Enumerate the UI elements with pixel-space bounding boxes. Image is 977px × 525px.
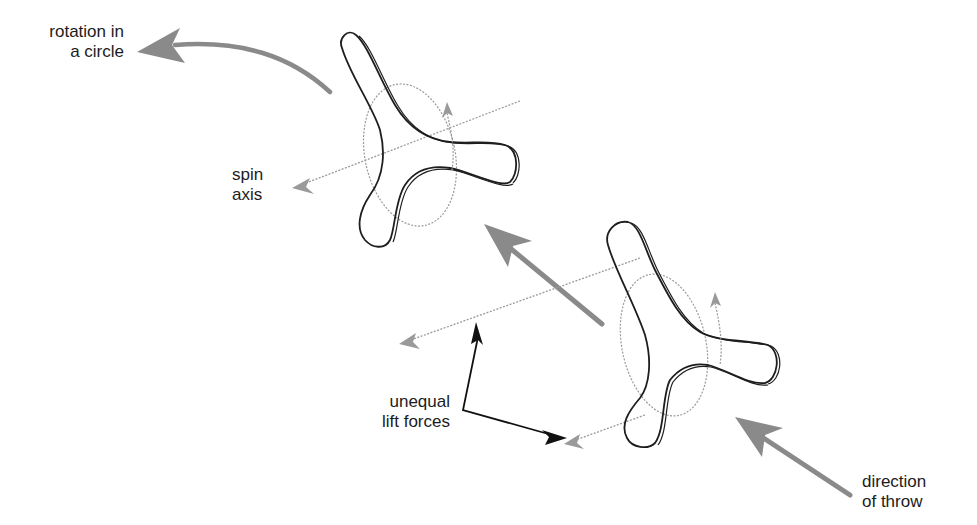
throw-direction-label: direction of throw [862, 472, 926, 512]
throw-arrow [735, 417, 850, 495]
travel-arrow-middle [484, 224, 602, 324]
spin-axis-lower-bottom [570, 415, 645, 442]
boomerang-lower [399, 222, 780, 449]
rotation-arrow [137, 28, 330, 92]
spin-axis-label: spin axis [232, 165, 263, 205]
spin-axis-lower-top [405, 258, 640, 342]
lift-forces-label: unequal lift forces [350, 392, 450, 432]
boomerang-upper [292, 33, 520, 247]
lift-pointer-arrows [463, 322, 567, 445]
boomerang-diagram [0, 0, 977, 525]
rotation-label: rotation in a circle [18, 22, 124, 62]
